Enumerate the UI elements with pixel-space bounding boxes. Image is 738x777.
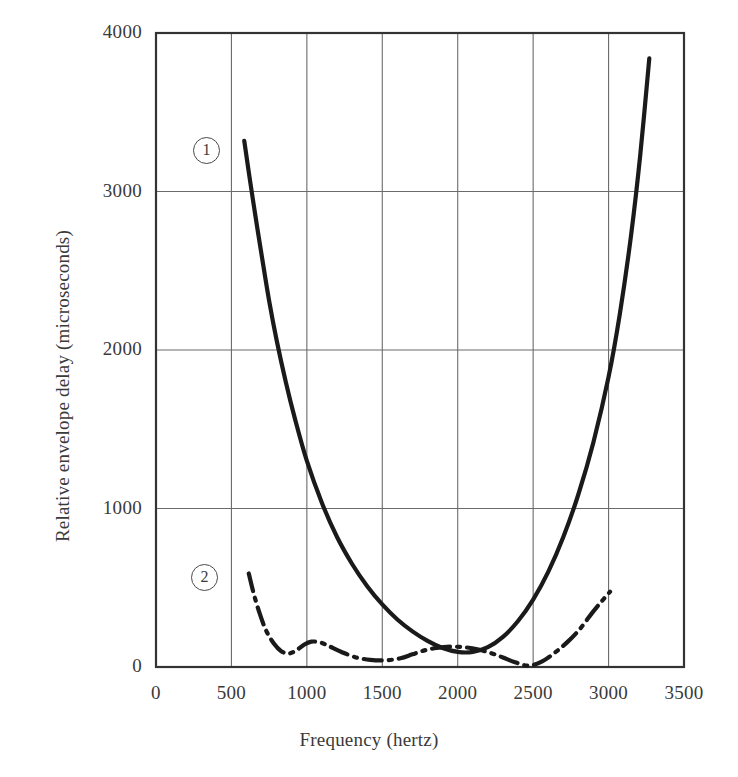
series-2-annotation-badge: 2 bbox=[191, 564, 218, 591]
series-1-annotation-badge: 1 bbox=[193, 137, 220, 164]
x-tick-label: 500 bbox=[191, 682, 271, 704]
x-tick-label: 2500 bbox=[493, 682, 573, 704]
chart-figure: 01000200030004000 0500100015002000250030… bbox=[0, 0, 738, 777]
series-2-line bbox=[249, 573, 610, 665]
x-tick-label: 1500 bbox=[342, 682, 422, 704]
x-tick-label: 3000 bbox=[569, 682, 649, 704]
x-tick-label: 2000 bbox=[418, 682, 498, 704]
x-tick-label: 3500 bbox=[644, 682, 724, 704]
y-tick-label: 4000 bbox=[52, 21, 142, 43]
series-1-line bbox=[244, 58, 649, 652]
x-tick-label: 0 bbox=[116, 682, 196, 704]
y-axis-title: Relative envelope delay (microseconds) bbox=[52, 151, 74, 621]
data-series-group bbox=[244, 58, 649, 665]
x-tick-label: 1000 bbox=[267, 682, 347, 704]
y-tick-label: 0 bbox=[52, 655, 142, 677]
x-axis-title: Frequency (hertz) bbox=[0, 729, 738, 751]
gridlines bbox=[156, 33, 684, 667]
